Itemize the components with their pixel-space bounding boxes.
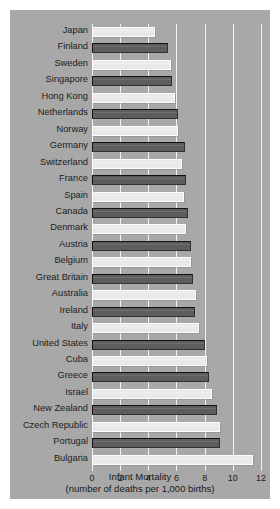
bar-czech-republic [92, 422, 220, 432]
bar-great-britain [92, 274, 193, 284]
bar-austria [92, 241, 191, 251]
chart-row: Portugal [10, 435, 270, 451]
bar-highlight [93, 392, 211, 393]
bar-france [92, 175, 186, 185]
chart-row: Netherlands [10, 106, 270, 122]
category-label: Italy [71, 321, 88, 331]
bar-australia [92, 290, 196, 300]
bar-highlight [93, 244, 190, 245]
category-label: Switzerland [40, 157, 88, 167]
bar-portugal [92, 438, 220, 448]
category-label: Portugal [53, 436, 88, 446]
bar-highlight [93, 458, 252, 459]
bar-highlight [93, 310, 194, 311]
bar-highlight [93, 326, 198, 327]
bar-highlight [93, 129, 177, 130]
chart-row: Spain [10, 189, 270, 205]
category-label: Hong Kong [41, 91, 88, 101]
chart-row: Australia [10, 287, 270, 303]
category-label: United States [32, 338, 88, 348]
category-label: Belgium [54, 255, 88, 265]
bar-cuba [92, 356, 207, 366]
bar-hong-kong [92, 93, 175, 103]
bar-ireland [92, 307, 195, 317]
category-label: Great Britain [36, 272, 88, 282]
category-label: Norway [56, 124, 88, 134]
bar-sweden [92, 60, 171, 70]
x-axis-title: Infant Mortality (number of deaths per 1… [10, 471, 270, 495]
bar-highlight [93, 359, 206, 360]
chart-row: United States [10, 337, 270, 353]
chart-row: Cuba [10, 353, 270, 369]
category-label: Spain [64, 190, 88, 200]
bar-highlight [93, 375, 208, 376]
x-axis-title-sub: (number of deaths per 1,000 births) [10, 483, 270, 495]
category-label: Cuba [66, 354, 88, 364]
category-label: New Zealand [33, 403, 88, 413]
category-label: Finland [58, 41, 89, 51]
category-label: Bulgaria [54, 453, 88, 463]
chart-figure: 024681012JapanFinlandSwedenSingaporeHong… [10, 10, 270, 499]
chart-row: Italy [10, 320, 270, 336]
chart-row: Singapore [10, 73, 270, 89]
chart-row: New Zealand [10, 402, 270, 418]
bar-netherlands [92, 109, 178, 119]
chart-row: Germany [10, 139, 270, 155]
bar-germany [92, 142, 185, 152]
bar-spain [92, 192, 184, 202]
category-label: Japan [63, 25, 88, 35]
category-label: Netherlands [38, 107, 88, 117]
bar-highlight [93, 46, 167, 47]
bar-highlight [93, 211, 187, 212]
bar-belgium [92, 257, 191, 267]
chart-row: Japan [10, 24, 270, 40]
chart-row: Norway [10, 123, 270, 139]
bar-bulgaria [92, 455, 253, 465]
bar-united-states [92, 340, 205, 350]
bar-highlight [93, 343, 204, 344]
bar-denmark [92, 224, 186, 234]
chart-row: Finland [10, 40, 270, 56]
bar-singapore [92, 76, 172, 86]
category-label: Ireland [60, 305, 88, 315]
bar-highlight [93, 112, 177, 113]
chart-row: Hong Kong [10, 90, 270, 106]
category-label: Denmark [50, 222, 88, 232]
bar-highlight [93, 96, 174, 97]
chart-row: France [10, 172, 270, 188]
bar-highlight [93, 79, 171, 80]
bar-highlight [93, 277, 192, 278]
chart-row: Czech Republic [10, 419, 270, 435]
chart-row: Sweden [10, 57, 270, 73]
chart-row: Bulgaria [10, 452, 270, 468]
bar-highlight [93, 293, 195, 294]
category-label: Canada [55, 206, 88, 216]
bar-highlight [93, 162, 181, 163]
chart-row: Ireland [10, 304, 270, 320]
category-label: Singapore [46, 74, 88, 84]
bar-switzerland [92, 159, 182, 169]
category-label: Germany [50, 140, 88, 150]
bar-canada [92, 208, 188, 218]
category-label: Greece [58, 370, 89, 380]
bar-new-zealand [92, 405, 217, 415]
category-label: France [59, 173, 88, 183]
chart-row: Austria [10, 238, 270, 254]
chart-row: Canada [10, 205, 270, 221]
category-label: Czech Republic [23, 420, 88, 430]
bar-highlight [93, 30, 154, 31]
bar-norway [92, 126, 178, 136]
category-label: Israel [65, 387, 88, 397]
bar-highlight [93, 425, 219, 426]
chart-row: Greece [10, 369, 270, 385]
bar-highlight [93, 145, 184, 146]
bar-israel [92, 389, 212, 399]
x-axis-title-main: Infant Mortality [10, 471, 270, 483]
bar-highlight [93, 195, 183, 196]
bar-japan [92, 27, 155, 37]
bar-greece [92, 372, 209, 382]
plot-area: 024681012JapanFinlandSwedenSingaporeHong… [10, 10, 270, 499]
bar-highlight [93, 178, 185, 179]
chart-row: Belgium [10, 254, 270, 270]
chart-row: Denmark [10, 221, 270, 237]
